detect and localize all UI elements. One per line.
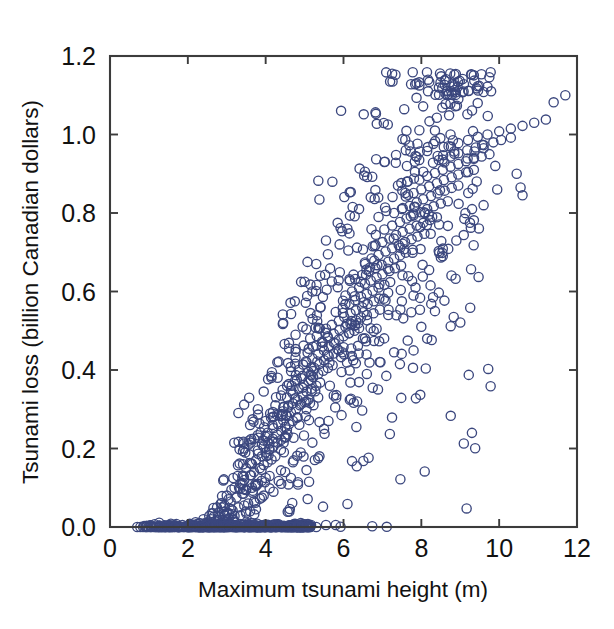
x-tick-label: 0 xyxy=(103,534,117,562)
x-axis-title: Maximum tsunami height (m) xyxy=(198,577,488,602)
y-tick-label: 1.2 xyxy=(61,42,96,70)
x-tick-label: 4 xyxy=(259,534,273,562)
y-axis-title: Tsunami loss (billion Canadian dollars) xyxy=(18,100,43,484)
x-tick-label: 6 xyxy=(337,534,351,562)
x-tick-label: 2 xyxy=(181,534,195,562)
x-tick-label: 10 xyxy=(485,534,513,562)
y-tick-label: 0.6 xyxy=(61,278,96,306)
y-tick-label: 0.4 xyxy=(61,356,96,384)
y-tick-label: 1.0 xyxy=(61,121,96,149)
tsunami-loss-scatter-figure: 024681012 0.00.20.40.60.81.01.2 Maximum … xyxy=(0,0,614,629)
x-tick-label: 12 xyxy=(563,534,591,562)
y-tick-label: 0.2 xyxy=(61,435,96,463)
scatter-plot-svg: 024681012 0.00.20.40.60.81.01.2 Maximum … xyxy=(0,0,614,629)
y-tick-label: 0.8 xyxy=(61,199,96,227)
y-tick-label: 0.0 xyxy=(61,513,96,541)
x-tick-label: 8 xyxy=(414,534,428,562)
